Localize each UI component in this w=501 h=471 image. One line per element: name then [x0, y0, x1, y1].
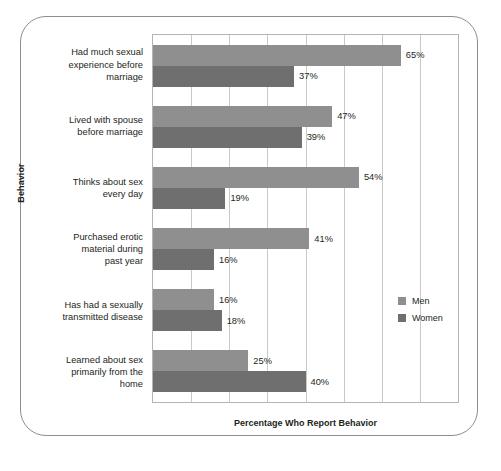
bar-value-women: 18% [222, 316, 246, 326]
category-label-line: transmitted disease [62, 312, 143, 322]
bar-row-women: 16% [153, 249, 458, 270]
category-label: Has had a sexually transmitted disease [40, 280, 148, 342]
bar-row-men: 54% [153, 167, 458, 188]
bar-row-women: 40% [153, 371, 458, 392]
plot-area: 65% 37% 47% 39% [152, 34, 459, 403]
bar-group: 47% 39% [153, 96, 458, 157]
bar-value-men: 41% [309, 234, 333, 244]
legend-swatch-icon [398, 297, 406, 305]
category-label-line: Had much sexual [71, 47, 143, 57]
bar-value-women: 16% [214, 255, 238, 265]
category-label: Had much sexual experience before marria… [40, 34, 148, 96]
bar-value-women: 39% [302, 132, 326, 142]
bar-women[interactable] [153, 249, 214, 270]
chart-figure: Behavior Had much sexual experience befo… [0, 0, 501, 471]
bar-value-men: 54% [359, 172, 383, 182]
bar-group: 65% 37% [153, 35, 458, 96]
category-label-line: Learned about sex [66, 355, 143, 365]
bar-women[interactable] [153, 127, 302, 148]
bar-value-men: 25% [248, 356, 272, 366]
bar-value-men: 16% [214, 295, 238, 305]
bar-value-women: 37% [294, 71, 318, 81]
bar-group: 41% 16% [153, 219, 458, 280]
bar-women[interactable] [153, 371, 306, 392]
bar-men[interactable] [153, 45, 401, 66]
bar-value-men: 65% [401, 50, 425, 60]
bar-value-women: 40% [306, 377, 330, 387]
legend-swatch-icon [398, 314, 406, 322]
category-label-line: Has had a sexually [64, 300, 143, 310]
bar-row-men: 47% [153, 106, 458, 127]
category-label-line: home [120, 379, 143, 389]
bar-women[interactable] [153, 310, 222, 331]
bar-group: 25% 40% [153, 341, 458, 402]
category-label-line: Purchased erotic [73, 232, 143, 242]
bar-men[interactable] [153, 106, 332, 127]
bar-groups: 65% 37% 47% 39% [153, 35, 458, 402]
bar-row-women: 19% [153, 188, 458, 209]
legend-item-women[interactable]: Women [398, 313, 443, 323]
category-label-line: marriage [106, 72, 143, 82]
bar-men[interactable] [153, 228, 309, 249]
bar-women[interactable] [153, 188, 225, 209]
category-label-line: Thinks about sex [73, 177, 143, 187]
bar-men[interactable] [153, 289, 214, 310]
category-label: Learned about sex primarily from the hom… [40, 342, 148, 404]
bar-men[interactable] [153, 167, 359, 188]
category-label-line: every day [103, 189, 143, 199]
bar-value-men: 47% [332, 111, 356, 121]
bar-row-men: 65% [153, 45, 458, 66]
category-label-line: experience before [69, 60, 143, 70]
bar-row-women: 37% [153, 66, 458, 87]
category-label-line: material during [82, 244, 144, 254]
category-label-line: past year [105, 256, 143, 266]
bar-men[interactable] [153, 350, 248, 371]
category-label-line: primarily from the [71, 367, 143, 377]
y-axis-title: Behavior [16, 138, 26, 228]
bar-row-men: 25% [153, 350, 458, 371]
category-label-line: Lived with spouse [69, 115, 143, 125]
category-label: Lived with spouse before marriage [40, 96, 148, 158]
bar-value-women: 19% [225, 193, 249, 203]
category-label-line: before marriage [77, 127, 143, 137]
x-axis-title: Percentage Who Report Behavior [152, 418, 459, 428]
bar-row-women: 39% [153, 127, 458, 148]
bar-group: 54% 19% [153, 157, 458, 218]
category-label-column: Had much sexual experience before marria… [40, 34, 148, 403]
bar-women[interactable] [153, 66, 294, 87]
category-label: Thinks about sex every day [40, 157, 148, 219]
legend-item-men[interactable]: Men [398, 296, 443, 306]
category-label: Purchased erotic material during past ye… [40, 219, 148, 281]
legend-label: Women [412, 313, 443, 323]
chart-legend: Men Women [398, 296, 443, 323]
legend-label: Men [412, 296, 430, 306]
bar-row-men: 41% [153, 228, 458, 249]
